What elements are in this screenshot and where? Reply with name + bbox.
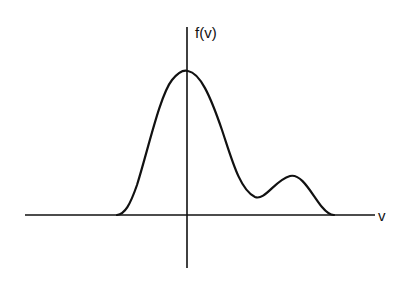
distribution-curve [117,71,334,215]
x-axis-label: v [378,207,386,224]
distribution-diagram: f(v) v [0,0,408,285]
y-axis-label: f(v) [195,24,217,41]
